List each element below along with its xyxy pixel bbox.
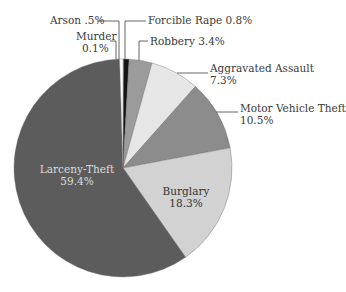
larceny-theft-name-label: Larceny-Theft — [40, 163, 115, 175]
motor-vehicle-theft-name-label: Motor Vehicle Theft — [240, 102, 346, 114]
robbery-label: Robbery 3.4% — [150, 35, 225, 47]
crime-pie-chart: Arson .5% Murder 0.1% Forcible Rape 0.8%… — [0, 0, 346, 292]
arson-label: Arson .5% — [49, 14, 104, 26]
larceny-theft-value-label: 59.4% — [60, 175, 93, 187]
aggravated-assault-value-label: 7.3% — [210, 74, 237, 86]
forcible-rape-leader-line — [125, 21, 146, 59]
aggravated-assault-name-label: Aggravated Assault — [209, 62, 315, 74]
motor-vehicle-theft-value-label: 10.5% — [240, 114, 273, 126]
robbery-leader-line — [139, 41, 148, 61]
murder-leader-line — [110, 41, 116, 59]
forcible-rape-label: Forcible Rape 0.8% — [148, 14, 252, 26]
murder-name-label: Murder — [76, 30, 117, 42]
burglary-name-label: Burglary — [163, 185, 210, 197]
burglary-value-label: 18.3% — [169, 197, 202, 209]
murder-value-label: 0.1% — [82, 42, 109, 54]
